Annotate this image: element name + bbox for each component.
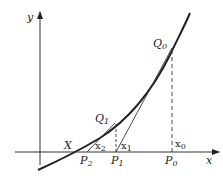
point-label-q0: Q0 [153,37,167,51]
point-label-q1: Q1 [95,112,109,126]
newton-method-diagram: y x Q0 Q1 X P2 P1 P0 x2 x1 x0 [0,0,223,196]
x-axis-label: x [206,154,213,167]
value-label-x1: x1 [121,140,132,153]
value-label-x2: x2 [95,140,106,153]
point-label-p2: P2 [79,154,93,168]
y-axis-label: y [26,11,34,24]
value-label-x0: x0 [175,138,186,151]
point-label-p1: P1 [110,154,124,168]
point-label-p0: P0 [164,154,178,168]
root-label-x: X [63,139,73,152]
tangent-line-q0 [116,48,172,152]
function-curve [38,13,190,170]
